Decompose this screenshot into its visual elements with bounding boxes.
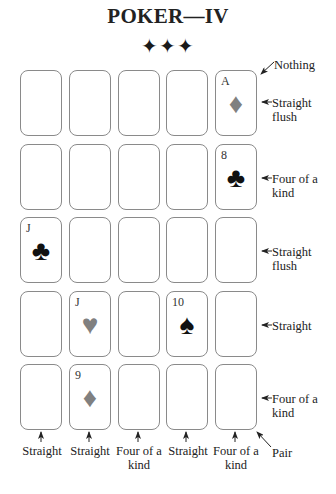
arrows-layer — [0, 0, 336, 494]
arrow-diagonal-top — [261, 62, 274, 74]
arrow-diagonal-bottom — [257, 432, 271, 447]
